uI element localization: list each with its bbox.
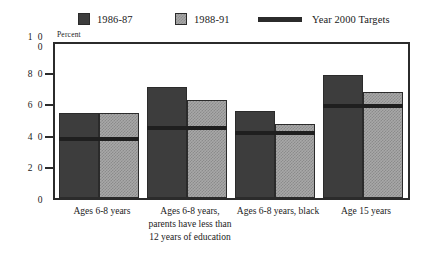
bar-g3-1986-87 [235, 111, 275, 198]
y-tick-label-40: 4 0 [18, 132, 44, 142]
y-tick-label-60: 6 0 [18, 100, 44, 110]
y-tick-label-0: 0 [18, 195, 44, 205]
y-tick-mark-60 [45, 104, 53, 106]
y-tick-mark-40 [45, 136, 53, 138]
y-tick-label-80: 8 0 [18, 69, 44, 79]
legend-label: Year 2000 Targets [312, 14, 390, 25]
target-line-g4 [323, 104, 403, 108]
square-swatch-hatched-icon [175, 13, 187, 25]
bar-g2-1988-91 [187, 100, 227, 198]
bar-g1-1986-87 [59, 113, 99, 198]
bar-g4-1986-87 [323, 75, 363, 198]
legend-item-year-2000-targets: Year 2000 Targets [258, 10, 390, 28]
legend-item-1986-87: 1986-87 [78, 10, 133, 28]
target-line-g1 [59, 137, 139, 141]
square-swatch-dark-icon [78, 13, 90, 25]
chart-legend: 1986-87 1988-91 Year 2000 Targets [0, 10, 436, 28]
bar-g1-1988-91 [99, 113, 139, 198]
x-label-group-4: Age 15 years [281, 205, 436, 218]
legend-item-1988-91: 1988-91 [175, 10, 230, 28]
bar-g2-1986-87 [147, 87, 187, 198]
legend-label: 1986-87 [97, 14, 133, 25]
plot-area [53, 42, 410, 200]
bar-g4-1988-91 [363, 92, 403, 198]
y-tick-mark-20 [45, 167, 53, 169]
y-tick-mark-80 [45, 73, 53, 75]
bar-g3-1988-91 [275, 124, 315, 198]
y-tick-label-100: 1 0 0 [18, 32, 44, 52]
target-line-g3 [235, 131, 315, 135]
y-tick-label-20: 2 0 [18, 163, 44, 173]
bar-chart-figure: 1986-87 1988-91 Year 2000 Targets Percen… [0, 0, 436, 275]
horizontal-rule-swatch-icon [258, 17, 302, 22]
y-axis-title: Percent [57, 30, 81, 39]
target-line-g2 [147, 126, 227, 130]
legend-label: 1988-91 [194, 14, 230, 25]
